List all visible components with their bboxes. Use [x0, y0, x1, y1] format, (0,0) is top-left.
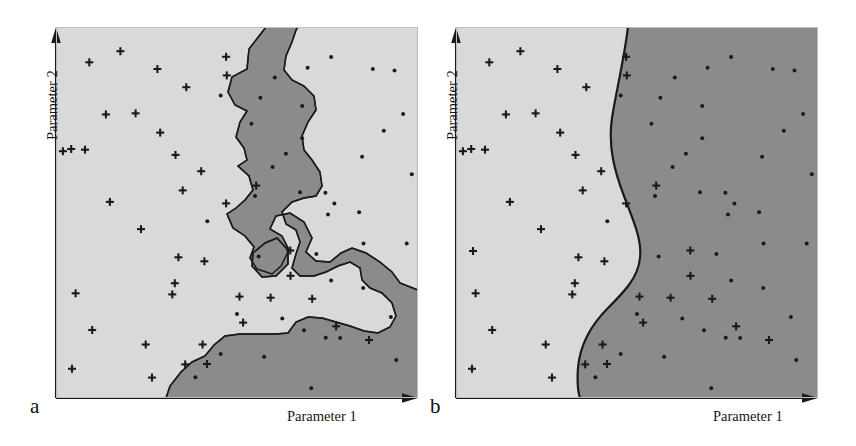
y-axis-label-a: Parameter 2: [44, 70, 61, 140]
panel-a: a Parameter 1 Parameter 2: [0, 0, 428, 446]
figure-container: a Parameter 1 Parameter 2: [0, 0, 856, 446]
panel-b-plot: [428, 0, 856, 446]
panel-letter-b: b: [430, 396, 441, 417]
panel-letter-a: a: [30, 396, 39, 417]
x-axis-label-b: Parameter 1: [713, 408, 783, 425]
y-axis-label-b: Parameter 2: [444, 70, 461, 140]
panel-b: b Parameter 1 Parameter 2: [428, 0, 856, 446]
x-axis-label-a: Parameter 1: [287, 408, 357, 425]
panel-a-plot: [0, 0, 428, 446]
